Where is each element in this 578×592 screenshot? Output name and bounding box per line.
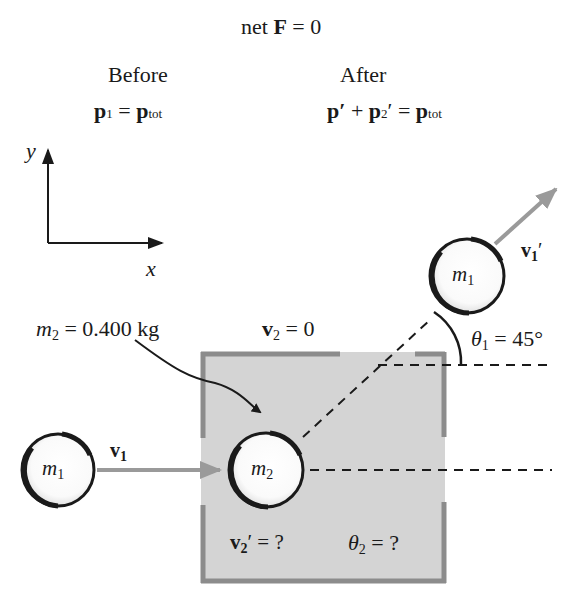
y-axis-label: y bbox=[26, 140, 36, 162]
subscript: 1 bbox=[482, 338, 489, 353]
subscript: tot bbox=[148, 106, 162, 121]
m2-mass-label: m2 = 0.400 kg bbox=[36, 318, 159, 343]
subscript: 2 bbox=[266, 467, 273, 482]
v1-prime-label: v1′ bbox=[521, 240, 542, 264]
p-symbol: p bbox=[136, 98, 148, 123]
v-symbol: v bbox=[110, 439, 120, 461]
v2-value: = 0 bbox=[280, 316, 314, 341]
force-value: = 0 bbox=[287, 14, 321, 39]
theta1-label: θ1 = 45° bbox=[471, 328, 543, 353]
unknown-value: = ? bbox=[252, 530, 284, 554]
prime: ′ bbox=[538, 239, 542, 261]
m1-before-label: m1 bbox=[42, 458, 64, 482]
theta-symbol: θ bbox=[471, 326, 482, 351]
diagram-canvas bbox=[0, 0, 578, 592]
v-symbol: v bbox=[262, 316, 273, 341]
plus: + bbox=[345, 98, 368, 123]
m2-label: m2 bbox=[251, 458, 273, 482]
equals: = bbox=[392, 98, 415, 123]
subscript: 2 bbox=[273, 328, 280, 343]
after-momentum-equation: p′ + p2′ = ptot bbox=[327, 100, 442, 122]
subscript: tot bbox=[428, 106, 442, 121]
v2-initial-label: v2 = 0 bbox=[262, 318, 314, 343]
after-title: After bbox=[340, 64, 386, 86]
x-axis-label: x bbox=[146, 258, 156, 280]
p-symbol: p bbox=[369, 98, 381, 123]
subscript: 2 bbox=[241, 541, 248, 556]
m-symbol: m bbox=[42, 456, 57, 480]
subscript: 1 bbox=[57, 467, 64, 482]
subscript: 2 bbox=[52, 328, 59, 343]
before-title: Before bbox=[108, 64, 168, 86]
force-symbol: F bbox=[273, 14, 286, 39]
subscript: 1 bbox=[531, 249, 538, 264]
subscript: 2 bbox=[359, 542, 366, 557]
v2-prime-unknown-label: v2′ = ? bbox=[230, 532, 284, 556]
unknown-value: = ? bbox=[366, 530, 399, 555]
p-symbol: p bbox=[416, 98, 428, 123]
m-symbol: m bbox=[452, 262, 467, 286]
theta-symbol: θ bbox=[348, 530, 359, 555]
coordinate-axes bbox=[48, 150, 162, 243]
angle-value: = 45° bbox=[489, 326, 543, 351]
m-symbol: m bbox=[251, 456, 266, 480]
before-momentum-equation: p1 = ptot bbox=[94, 100, 162, 122]
net-label: net bbox=[241, 14, 273, 39]
p1-prime-symbol: p′ bbox=[327, 98, 345, 123]
v1-label: v1 bbox=[110, 440, 127, 464]
mass-value: = 0.400 kg bbox=[59, 316, 159, 341]
v-symbol: v bbox=[521, 239, 531, 261]
m1-after-label: m1 bbox=[452, 264, 474, 288]
subscript: 1 bbox=[467, 273, 474, 288]
net-force-condition: net F = 0 bbox=[241, 16, 321, 38]
subscript: 1 bbox=[120, 449, 127, 464]
m-symbol: m bbox=[36, 316, 52, 341]
theta2-unknown-label: θ2 = ? bbox=[348, 532, 399, 557]
v-symbol: v bbox=[230, 530, 241, 554]
velocity-arrow-v1-prime bbox=[495, 189, 556, 244]
p-symbol: p bbox=[94, 98, 106, 123]
equals: = bbox=[113, 98, 136, 123]
